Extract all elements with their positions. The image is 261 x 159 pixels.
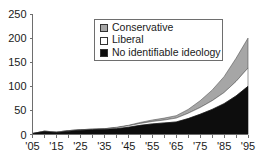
- x-tick-label: '65: [169, 140, 183, 152]
- legend-label: Conservative: [112, 21, 173, 33]
- legend-label: No identifiable ideology: [112, 46, 221, 58]
- x-tick-label: '85: [217, 140, 231, 152]
- x-tick-label: '25: [73, 140, 87, 152]
- x-axis: '05'15'25'35'45'55'65'75'85'95: [25, 135, 255, 152]
- x-tick-label: '75: [193, 140, 207, 152]
- x-tick-label: '05: [25, 140, 39, 152]
- y-axis: 050100150200250: [8, 8, 32, 141]
- x-tick-label: '95: [241, 140, 255, 152]
- x-tick-label: '55: [145, 140, 159, 152]
- x-tick-label: '35: [97, 140, 111, 152]
- x-tick-label: '45: [121, 140, 135, 152]
- legend-label: Liberal: [112, 33, 144, 45]
- stacked-area-chart: 050100150200250 '05'15'25'35'45'55'65'75…: [0, 0, 261, 159]
- square-swatch-white: [101, 37, 108, 44]
- y-tick-label: 200: [8, 32, 26, 44]
- square-swatch-black: [101, 50, 108, 57]
- y-tick-label: 150: [8, 56, 26, 68]
- y-tick-label: 50: [14, 104, 26, 116]
- chart-svg: 050100150200250 '05'15'25'35'45'55'65'75…: [0, 0, 261, 159]
- x-tick-label: '15: [49, 140, 63, 152]
- square-swatch-gray: [101, 25, 108, 32]
- y-tick-label: 100: [8, 80, 26, 92]
- y-tick-label: 250: [8, 8, 26, 20]
- legend: ConservativeLiberalNo identifiable ideol…: [95, 20, 223, 61]
